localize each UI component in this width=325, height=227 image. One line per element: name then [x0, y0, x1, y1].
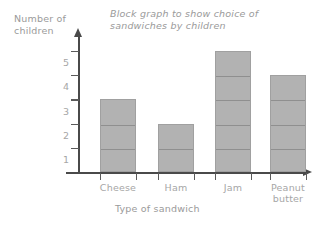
bar [158, 124, 194, 172]
bar-block-divider [159, 149, 193, 150]
x-axis-tick [158, 173, 159, 180]
block-graph-figure: Block graph to show choice of sandwiches… [0, 0, 325, 227]
x-axis-category-label: Peanut butter [258, 182, 318, 204]
bar [270, 75, 306, 172]
x-axis-tick [136, 173, 137, 180]
bar-block-divider [216, 149, 250, 150]
bar-block-divider [101, 125, 135, 126]
x-axis-tick [215, 173, 216, 180]
bar [100, 99, 136, 172]
y-axis-tick-label: 2 [58, 131, 69, 141]
bar-block-divider [216, 125, 250, 126]
bar-block-divider [101, 149, 135, 150]
y-axis-tick [71, 148, 79, 149]
x-axis-label: Type of sandwich [115, 203, 200, 214]
y-axis-tick-label: 3 [58, 107, 69, 117]
y-axis-tick-label: 4 [58, 82, 69, 92]
x-axis-tick [194, 173, 195, 180]
y-axis-tick [71, 99, 79, 100]
bar [215, 51, 251, 172]
y-axis-tick-label: 5 [58, 58, 69, 68]
chart-title: Block graph to show choice of sandwiches… [110, 8, 310, 32]
y-axis-arrow-icon [74, 28, 82, 37]
x-axis-category-label: Cheese [88, 182, 148, 193]
bar-block-divider [216, 76, 250, 77]
y-axis-tick-label: 1 [58, 155, 69, 165]
bar-block-divider [216, 100, 250, 101]
x-axis-tick [270, 173, 271, 180]
x-axis-category-label: Jam [203, 182, 263, 193]
bar-block-divider [271, 100, 305, 101]
bar-block-divider [271, 125, 305, 126]
y-axis-label: Number of children [14, 13, 76, 37]
y-axis-tick [71, 51, 79, 52]
y-axis-line [78, 36, 80, 173]
y-axis-tick [71, 75, 79, 76]
y-axis-tick [71, 124, 79, 125]
bar-block-divider [271, 149, 305, 150]
x-axis-tick [100, 173, 101, 180]
x-axis-tick [306, 173, 307, 180]
x-axis-tick [251, 173, 252, 180]
x-axis-category-label: Ham [146, 182, 206, 193]
